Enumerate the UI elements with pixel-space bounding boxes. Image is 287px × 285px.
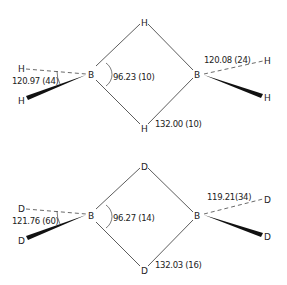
atom-right-terminal-dashed: D: [264, 195, 271, 205]
bond-left-b-top-d: [96, 168, 140, 209]
angle-arc-bridge: [106, 205, 112, 228]
atom-bridge-top: D: [141, 162, 148, 172]
atom-left-terminal-dashed: D: [18, 204, 25, 214]
atom-left-terminal-wedge: D: [18, 236, 25, 246]
atom-right-terminal-dashed: H: [264, 56, 271, 66]
bond-right-wedge: [204, 215, 263, 237]
label-bridge-angle: 96.27 (14): [113, 213, 154, 223]
label-right-terminal-angle: 120.08 (24): [204, 55, 251, 65]
diborane-d-structure: B B D D D D D D 121.76 (60) 96.27 (14) 1…: [12, 162, 271, 276]
bond-right-wedge: [204, 75, 263, 98]
label-bridge-angle: 96.23 (10): [113, 72, 154, 82]
atom-bridge-top: H: [141, 18, 148, 28]
diborane-h-structure: B B H H H H H H 120.97 (44) 96.23 (10) 1…: [12, 18, 271, 134]
label-left-terminal-angle: 121.76 (60): [12, 216, 59, 226]
label-right-terminal-angle: 119.21(34): [207, 192, 251, 202]
atom-bridge-bottom: H: [141, 124, 148, 134]
bond-left-b-top-h: [96, 24, 140, 66]
bond-left-b-bottom-d: [96, 222, 140, 266]
label-bridge-b-h-b-angle: 132.00 (10): [155, 119, 202, 129]
bond-left-dashed: [26, 69, 86, 74]
bond-left-dashed: [26, 209, 86, 214]
bond-top-d-right-b: [148, 168, 193, 212]
atom-left-boron: B: [88, 211, 94, 221]
label-left-terminal-angle: 120.97 (44): [12, 76, 59, 86]
atom-left-terminal-wedge: H: [18, 96, 25, 106]
atom-right-boron: B: [194, 211, 200, 221]
atom-bridge-bottom: D: [141, 266, 148, 276]
atom-right-terminal-wedge: H: [264, 93, 271, 103]
bond-bottom-h-right-b: [148, 78, 193, 124]
atom-left-boron: B: [88, 70, 94, 80]
label-bridge-b-d-b-angle: 132.03 (16): [155, 260, 202, 270]
atom-right-terminal-wedge: D: [264, 232, 271, 242]
bond-left-b-bottom-h: [96, 80, 140, 124]
bond-top-h-right-b: [148, 24, 193, 70]
atom-left-terminal-dashed: H: [18, 64, 25, 74]
angle-arc-bridge: [106, 63, 112, 86]
atom-right-boron: B: [194, 70, 200, 80]
